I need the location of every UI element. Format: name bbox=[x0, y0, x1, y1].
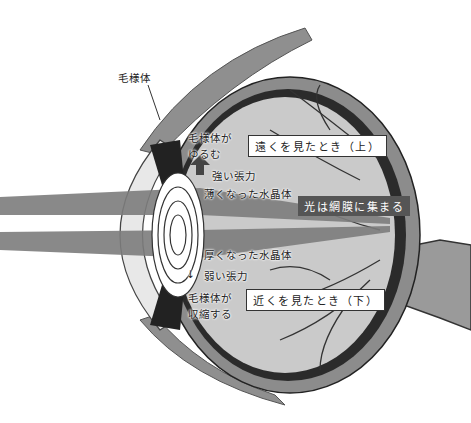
down-arrow-icon: ↓ bbox=[186, 268, 196, 280]
ciliary-pointer bbox=[148, 85, 160, 120]
label-strong-tension: 強い張力 bbox=[212, 168, 256, 183]
label-far-view: 遠くを見たとき（上） bbox=[248, 135, 387, 157]
label-weak-tension: 弱い張力 bbox=[204, 268, 248, 283]
label-light-retina: 光は網膜に集まる bbox=[298, 196, 410, 216]
label-ciliary-contracts-1: 毛様体が bbox=[188, 290, 232, 305]
label-ciliary-contracts-2: 収縮する bbox=[188, 306, 232, 321]
label-ciliary-body: 毛様体 bbox=[118, 70, 151, 85]
eye-diagram: 毛様体 毛様体が ゆるむ 強い張力 薄くなった水晶体 光は網膜に集まる 厚くなっ… bbox=[0, 0, 471, 423]
label-thin-lens: 薄くなった水晶体 bbox=[204, 186, 292, 201]
label-thick-lens: 厚くなった水晶体 bbox=[204, 247, 292, 262]
crystalline-lens bbox=[152, 173, 204, 297]
label-ciliary-relaxes-2: ゆるむ bbox=[188, 146, 221, 161]
label-ciliary-relaxes-1: 毛様体が bbox=[188, 130, 232, 145]
label-near-view: 近くを見たとき（下） bbox=[246, 289, 385, 311]
